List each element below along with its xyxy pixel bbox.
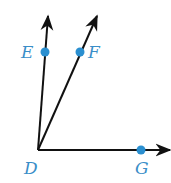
point-E bbox=[41, 48, 50, 57]
point-label-F: F bbox=[87, 42, 101, 62]
point-G bbox=[137, 146, 146, 155]
angle-diagram: EFGD bbox=[0, 0, 171, 183]
point-label-E: E bbox=[20, 42, 34, 62]
point-label-G: G bbox=[135, 158, 149, 178]
point-F bbox=[76, 48, 85, 57]
vertex-label-D: D bbox=[23, 158, 38, 178]
